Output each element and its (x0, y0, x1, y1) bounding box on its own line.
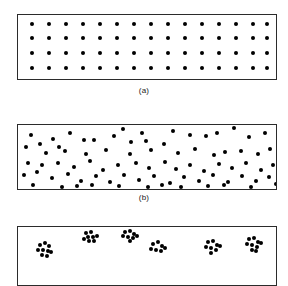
data-point (90, 183, 94, 187)
data-point (217, 36, 221, 40)
data-point (45, 254, 49, 258)
data-point (215, 131, 219, 135)
data-point (234, 22, 238, 26)
data-point (81, 36, 85, 40)
data-point (40, 163, 44, 167)
data-point (47, 66, 51, 70)
data-point (183, 66, 187, 70)
data-point (162, 142, 166, 146)
data-point (174, 167, 178, 171)
data-point (209, 251, 213, 255)
data-point (30, 36, 34, 40)
data-point (132, 51, 136, 55)
data-point (140, 131, 144, 135)
data-point (146, 185, 150, 189)
data-point (268, 147, 272, 151)
data-point (234, 36, 238, 40)
panel-a-plot-area (18, 15, 276, 79)
data-point (92, 138, 96, 142)
data-point (218, 244, 222, 248)
data-point (116, 163, 120, 167)
data-point (98, 66, 102, 70)
data-point (240, 174, 244, 178)
data-point (47, 51, 51, 55)
data-point (92, 239, 96, 243)
data-point (244, 161, 248, 165)
panel-a (17, 14, 277, 80)
data-point (24, 145, 28, 149)
data-point (247, 135, 251, 139)
data-point (251, 51, 255, 55)
data-point (47, 36, 51, 40)
data-point (212, 153, 216, 157)
data-point (259, 241, 263, 245)
data-point (149, 22, 153, 26)
data-point (232, 126, 236, 130)
data-point (166, 51, 170, 55)
data-point (29, 133, 33, 137)
data-point (49, 250, 53, 254)
data-point (163, 160, 167, 164)
data-point (254, 249, 258, 253)
data-point (188, 163, 192, 167)
data-point (79, 179, 83, 183)
data-point (265, 51, 269, 55)
data-point (64, 51, 68, 55)
data-point (274, 182, 276, 186)
data-point (211, 239, 215, 243)
data-point (38, 142, 42, 146)
data-point (179, 185, 183, 189)
panel-b (17, 124, 277, 190)
data-point (128, 239, 132, 243)
data-point (60, 185, 64, 189)
data-point (40, 253, 44, 257)
data-point (149, 247, 153, 251)
data-point (265, 66, 269, 70)
data-point (135, 234, 139, 238)
panel-a-caption: (a) (0, 86, 288, 96)
data-point (75, 184, 79, 188)
data-point (95, 234, 99, 238)
data-point (115, 66, 119, 70)
data-point (41, 248, 45, 252)
data-point (217, 51, 221, 55)
data-point (82, 138, 86, 142)
panel-b-plot-area (18, 125, 276, 189)
data-point (151, 242, 155, 246)
data-point (87, 239, 91, 243)
data-point (188, 133, 192, 137)
data-point (171, 129, 175, 133)
data-point (200, 66, 204, 70)
data-point (206, 184, 210, 188)
data-point (115, 51, 119, 55)
data-point (98, 36, 102, 40)
data-point (72, 165, 76, 169)
data-point (94, 174, 98, 178)
data-point (44, 151, 48, 155)
data-point (82, 237, 86, 241)
data-point (149, 66, 153, 70)
data-point (251, 22, 255, 26)
data-point (26, 161, 30, 165)
data-point (183, 51, 187, 55)
data-point (263, 131, 267, 135)
data-point (249, 185, 253, 189)
data-point (128, 152, 132, 156)
data-point (31, 183, 35, 187)
data-point (251, 36, 255, 40)
data-point (183, 22, 187, 26)
data-point (182, 175, 186, 179)
data-point (144, 139, 148, 143)
data-point (234, 66, 238, 70)
data-point (117, 184, 121, 188)
data-point (56, 161, 60, 165)
data-point (251, 66, 255, 70)
data-point (211, 173, 215, 177)
data-point (63, 149, 67, 153)
data-point (223, 150, 227, 154)
data-point (84, 152, 88, 156)
data-point (64, 22, 68, 26)
data-point (81, 51, 85, 55)
data-point (132, 36, 136, 40)
